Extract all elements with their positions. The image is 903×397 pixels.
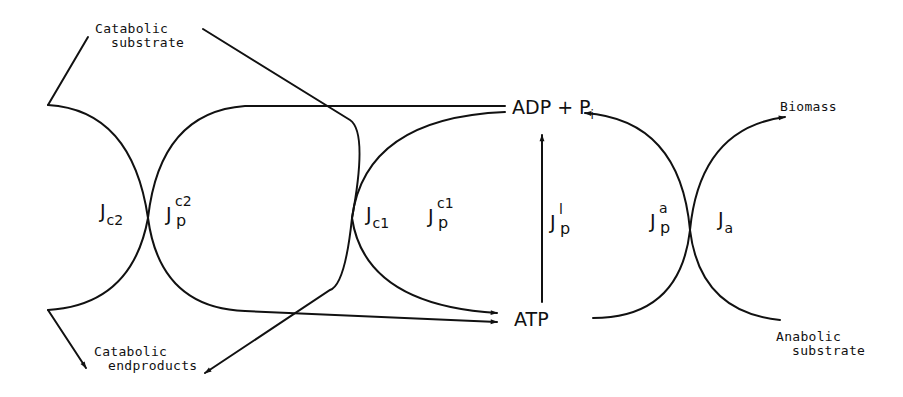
flux-jp-c1-sub: p (438, 215, 448, 231)
catabolic-endproducts-line1: Catabolic (94, 345, 197, 358)
flux-jc2-sub: c2 (107, 212, 124, 228)
flux-jp-l-sub: p (560, 221, 570, 237)
flux-jc1: Jc1 (366, 205, 389, 230)
jc2-endproduct-arrow (48, 310, 86, 368)
biomass-label: Biomass (780, 100, 837, 113)
catabolic-substrate-label: Catabolic substrate (95, 22, 184, 49)
catabolic-endproducts-line2: endproducts (108, 359, 197, 372)
jp-c1-arc-bottom (352, 218, 497, 313)
flux-jp-c1: Jc1p (428, 207, 434, 226)
jc1-arc-bottom (205, 218, 352, 373)
adp-pi-label: ADP + Pi (512, 98, 594, 121)
atp-label: ATP (514, 310, 549, 329)
adp-pi-sub: i (591, 108, 594, 122)
flux-ja: Ja (718, 210, 733, 235)
anabolic-substrate-line2: substrate (792, 344, 865, 357)
jc2-arc-top (48, 105, 148, 218)
flux-jp-c2-sub: p (176, 213, 186, 229)
catabolic-substrate-line1: Catabolic (95, 22, 184, 35)
flux-jp-a-main: J (650, 210, 656, 232)
ja-arc-bottom (690, 230, 780, 320)
flux-jp-a: Jap (650, 212, 656, 231)
jp-c1-arc-top (352, 112, 505, 218)
flux-jc1-sub: c1 (373, 215, 390, 231)
anabolic-substrate-line1: Anabolic (776, 330, 865, 343)
flux-jp-a-sup: a (659, 201, 668, 215)
flux-jp-l-main: J (550, 211, 556, 233)
catabolic-substrate-line-left (48, 37, 88, 105)
jp-a-arc-top (585, 113, 690, 230)
catabolic-substrate-line2: substrate (111, 36, 184, 49)
flux-jp-l-sup: l (559, 202, 563, 216)
flux-jp-a-sub: p (660, 220, 670, 236)
anabolic-substrate-label: Anabolic substrate (776, 330, 865, 357)
flux-jp-c1-main: J (428, 205, 434, 227)
ja-arc-top (690, 117, 785, 230)
jp-a-arc-bottom (593, 230, 690, 318)
catabolic-substrate-line-right (203, 29, 360, 218)
flux-jp-c2: Jc2p (166, 205, 172, 224)
flux-jp-c1-sup: c1 (437, 196, 454, 210)
flux-jc1-main: J (366, 203, 372, 225)
flux-jp-c2-main: J (166, 203, 172, 225)
catabolic-endproducts-label: Catabolic endproducts (94, 345, 197, 372)
flux-jp-l: Jlp (550, 213, 556, 232)
flux-ja-sub: a (725, 220, 734, 236)
flux-jc2-main: J (100, 200, 106, 222)
flux-jp-c2-sup: c2 (175, 194, 192, 208)
flux-ja-main: J (718, 208, 724, 230)
jc2-arc-bottom (48, 218, 148, 310)
flux-jc2: Jc2 (100, 202, 123, 227)
adp-pi-main: ADP + P (512, 96, 591, 118)
